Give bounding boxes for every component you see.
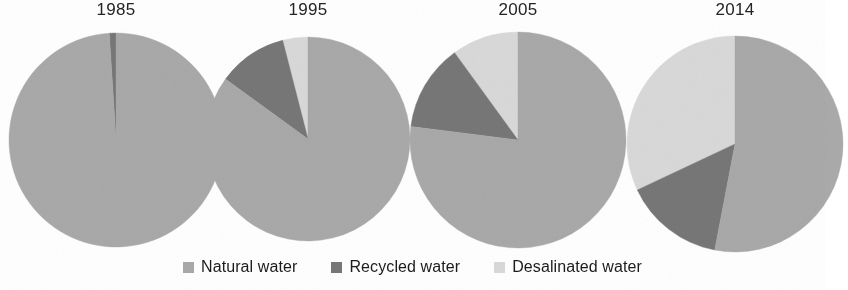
pie-canvas-2014 — [627, 36, 843, 252]
legend-item-desalinated-water[interactable]: Desalinated water — [494, 258, 642, 276]
legend-swatch-natural-water — [183, 262, 194, 273]
pie-canvas-2005 — [410, 32, 626, 248]
legend-item-recycled-water[interactable]: Recycled water — [331, 258, 460, 276]
legend-label-recycled-water: Recycled water — [349, 258, 460, 276]
legend-label-natural-water: Natural water — [201, 258, 297, 276]
legend-swatch-desalinated-water — [494, 262, 505, 273]
legend-label-desalinated-water: Desalinated water — [512, 258, 642, 276]
legend-item-natural-water[interactable]: Natural water — [183, 258, 297, 276]
pie-panel-2014: 2014 — [597, 0, 848, 258]
pie-title-2014: 2014 — [597, 0, 848, 20]
chart-legend: Natural waterRecycled waterDesalinated w… — [0, 258, 825, 276]
legend-swatch-recycled-water — [331, 262, 342, 273]
